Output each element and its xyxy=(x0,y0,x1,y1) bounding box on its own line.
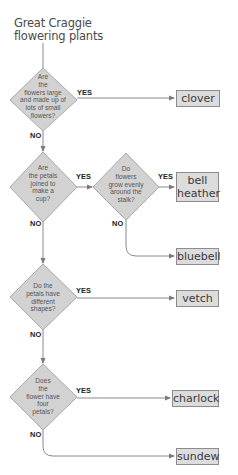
flowchart: Great Craggie flowering plants Are the f… xyxy=(0,0,238,475)
yes-label-q5: YES xyxy=(76,386,91,395)
no-label-q1: NO xyxy=(30,131,41,140)
no-label-q3: NO xyxy=(112,219,123,228)
answer-box-bluebell: bluebell xyxy=(176,248,219,265)
diagram-title: Great Craggie flowering plants xyxy=(14,17,103,43)
yes-label-q4: YES xyxy=(76,286,91,295)
question-q4: Do the petals have different shapes? xyxy=(13,282,73,313)
answer-box-clover: clover xyxy=(176,90,220,107)
no-label-q5: NO xyxy=(30,430,41,439)
question-q5: Does the flower have four petals? xyxy=(13,377,73,416)
question-q2: Are the petals joined to make a cup? xyxy=(13,164,73,203)
answer-box-charlock: charlock xyxy=(172,390,219,407)
no-label-q2: NO xyxy=(30,219,41,228)
yes-label-q3: YES xyxy=(158,172,173,181)
question-q1: Are the flowers large and made up of lot… xyxy=(13,73,73,120)
answer-box-bell-heather: bell heather xyxy=(176,172,219,202)
answer-box-sundew: sundew xyxy=(176,448,219,465)
answer-box-vetch: vetch xyxy=(176,290,219,307)
no-label-q4: NO xyxy=(30,330,41,339)
question-q3: Do flowers grow evenly around the stalk? xyxy=(96,165,156,204)
yes-label-q2: YES xyxy=(76,172,91,181)
yes-label-q1: YES xyxy=(77,88,92,97)
